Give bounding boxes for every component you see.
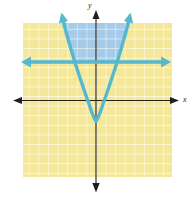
- y-axis-top-arrowhead: [93, 10, 100, 19]
- x-axis-left-arrowhead: [13, 97, 22, 104]
- parabola-left-arrowhead: [59, 13, 68, 24]
- graph-canvas: [0, 0, 192, 200]
- x-axis-label: x: [183, 96, 187, 104]
- x-axis-right-arrowhead: [170, 97, 179, 104]
- parabola-right-arrowhead: [124, 13, 133, 24]
- quadratic-inequality-figure: y x: [0, 0, 192, 200]
- y-axis-label: y: [88, 2, 92, 10]
- y-axis-bottom-tip: [93, 183, 100, 192]
